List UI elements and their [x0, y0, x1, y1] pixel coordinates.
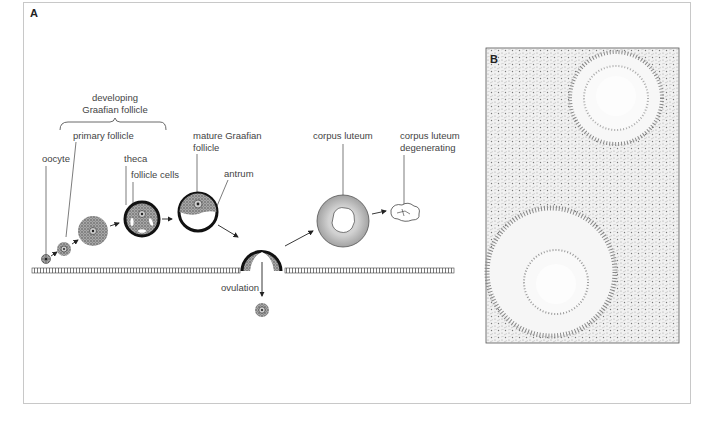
ovulated-oocyte	[255, 303, 269, 317]
label-follicle-cells: follicle cells	[131, 169, 179, 180]
panel-b-label: B	[490, 53, 498, 65]
corpus-luteum-degenerating	[391, 203, 420, 221]
label-graafian-follicle: Graafian follicle	[82, 104, 147, 115]
corpus-luteum	[317, 195, 369, 247]
panel-a-label: A	[30, 7, 38, 19]
label-mature-graafian: mature Graafian	[193, 130, 262, 141]
label-antrum: antrum	[224, 168, 254, 179]
oocyte-stage	[42, 255, 51, 264]
label-degenerating: degenerating	[400, 142, 455, 153]
label-corpus-luteum-deg: corpus luteum	[400, 130, 460, 141]
ovulating-follicle	[242, 252, 281, 272]
developing-brace	[60, 118, 166, 130]
label-mature-follicle: follicle	[193, 142, 219, 153]
growing-follicle	[78, 216, 108, 246]
label-theca: theca	[124, 153, 148, 164]
label-corpus-luteum: corpus luteum	[313, 130, 373, 141]
primary-follicle	[57, 242, 71, 256]
mature-graafian-follicle	[179, 193, 217, 231]
label-primary-follicle: primary follicle	[73, 130, 134, 141]
ovarian-cycle-diagram: A developing Graafian follicle primary f…	[0, 0, 709, 433]
label-developing: developing	[92, 92, 138, 103]
label-oocyte: oocyte	[42, 153, 70, 164]
histology-micrograph	[486, 48, 679, 343]
secondary-follicle	[125, 202, 159, 236]
label-ovulation: ovulation	[221, 282, 259, 293]
